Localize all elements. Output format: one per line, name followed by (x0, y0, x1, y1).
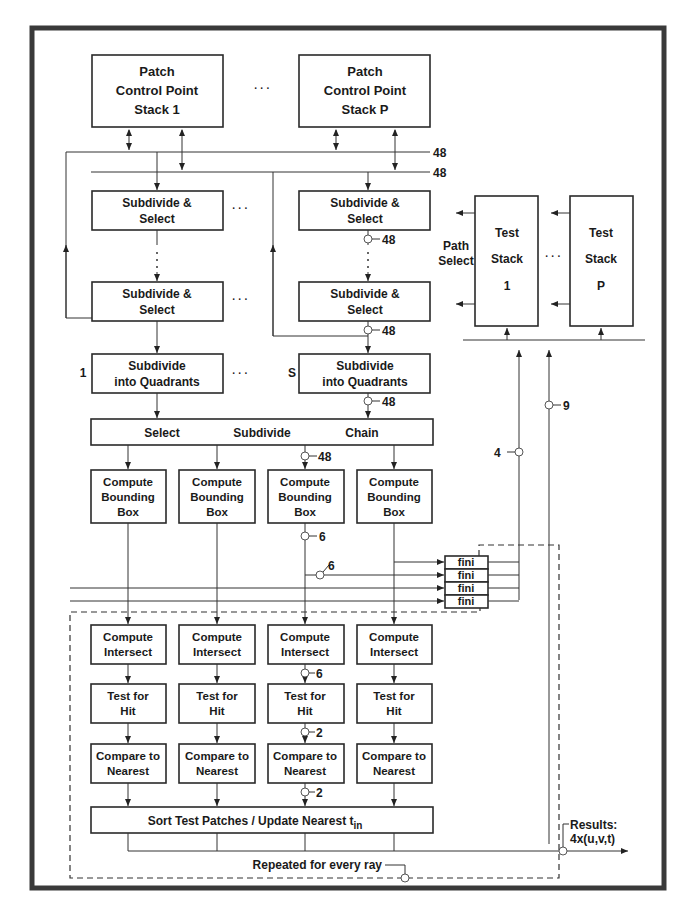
patch-stack-p: Patch Control Point Stack P (299, 55, 430, 127)
compare-nearest-2: Compare to Nearest (179, 744, 255, 783)
to-chain-links: 48 (157, 393, 396, 418)
bbox-output-links: 6 6 (70, 523, 444, 624)
svg-text:Select: Select (139, 303, 174, 317)
test-stack-1: Test Stack 1 (475, 196, 538, 326)
stack-bus-connectors (129, 130, 395, 170)
test-hit-2: Test for Hit (179, 684, 255, 723)
svg-text:Box: Box (294, 506, 316, 518)
svg-text:4: 4 (494, 446, 501, 460)
svg-text:Test for: Test for (373, 690, 415, 702)
svg-text:Compare to: Compare to (362, 750, 426, 762)
svg-text:6: 6 (328, 559, 335, 573)
svg-text:Select: Select (347, 303, 382, 317)
sort-update-bar: Sort Test Patches / Update Nearest tin (91, 807, 433, 833)
svg-text:Subdivide: Subdivide (128, 359, 186, 373)
svg-text:Nearest: Nearest (373, 765, 415, 777)
svg-text:Nearest: Nearest (196, 765, 238, 777)
svg-text:1: 1 (504, 279, 511, 293)
svg-text:Control Point: Control Point (324, 83, 407, 98)
svg-text:48: 48 (382, 395, 396, 409)
compare-nearest-3: Compare to Nearest (268, 744, 344, 783)
svg-text:Compute: Compute (103, 476, 153, 488)
svg-text:Intersect: Intersect (104, 646, 152, 658)
svg-text:Compare to: Compare to (185, 750, 249, 762)
svg-text:Intersect: Intersect (370, 646, 418, 658)
svg-text:fini: fini (458, 556, 475, 568)
quadrants-first: Subdivide into Quadrants (92, 354, 223, 393)
svg-text:Compute: Compute (280, 476, 330, 488)
svg-text:4x(u,v,t): 4x(u,v,t) (570, 832, 615, 846)
bounding-box-3: Compute Bounding Box (268, 470, 344, 523)
svg-text:Subdivide &: Subdivide & (122, 196, 192, 210)
svg-text:into Quadrants: into Quadrants (114, 375, 200, 389)
to-bbox-links: 48 (128, 445, 394, 469)
svg-text:Compute: Compute (369, 476, 419, 488)
subdivide-select-1-first: Subdivide & Select (92, 191, 223, 230)
svg-text:Select: Select (139, 212, 174, 226)
diagram-canvas: Patch Control Point Stack 1 · · · Patch … (0, 0, 695, 918)
svg-text:48: 48 (433, 146, 447, 160)
ellipsis: · · · (545, 251, 561, 262)
svg-text:Bounding: Bounding (190, 491, 244, 503)
stage-continuation: 48 (156, 230, 396, 281)
bounding-box-2: Compute Bounding Box (179, 470, 255, 523)
quadrants-last: Subdivide into Quadrants (299, 354, 430, 393)
ellipsis: · · · (232, 203, 248, 214)
test-hit-1: Test for Hit (91, 684, 166, 723)
svg-text:Intersect: Intersect (281, 646, 329, 658)
svg-text:Compare to: Compare to (273, 750, 337, 762)
select-subdivide-chain: Select Subdivide Chain (91, 419, 433, 445)
svg-text:fini: fini (458, 569, 475, 581)
svg-text:Hit: Hit (209, 705, 225, 717)
test-stack-p: Test Stack P (570, 196, 633, 326)
svg-text:Compute: Compute (280, 631, 330, 643)
svg-text:Stack: Stack (585, 252, 617, 266)
svg-text:48: 48 (318, 450, 332, 464)
compute-intersect-4: Compute Intersect (357, 625, 432, 664)
svg-text:Path: Path (443, 239, 469, 253)
stage-label-s: S (288, 366, 296, 380)
to-quadrants-links: 48 (157, 321, 396, 353)
svg-text:Patch: Patch (139, 64, 174, 79)
ellipsis: · · · (232, 294, 248, 305)
svg-text:Test for: Test for (107, 690, 149, 702)
subdivide-select-2-last: Subdivide & Select (299, 282, 430, 321)
svg-text:Test for: Test for (284, 690, 326, 702)
ellipsis: · · · (254, 83, 270, 94)
bounding-box-4: Compute Bounding Box (357, 470, 432, 523)
svg-text:Subdivide &: Subdivide & (330, 287, 400, 301)
svg-text:Compare to: Compare to (96, 750, 160, 762)
compute-intersect-2: Compute Intersect (179, 625, 255, 664)
svg-text:48: 48 (433, 166, 447, 180)
svg-text:6: 6 (319, 530, 326, 544)
svg-text:2: 2 (316, 786, 323, 800)
svg-text:Results:: Results: (570, 818, 617, 832)
stage-label-1: 1 (80, 366, 87, 380)
to-sort-links: 2 (128, 783, 394, 806)
to-hit-links: 6 (128, 664, 394, 683)
svg-text:Stack: Stack (491, 252, 523, 266)
to-nearest-links: 2 (128, 723, 394, 743)
svg-text:Control Point: Control Point (116, 83, 199, 98)
subdivide-select-1-last: Subdivide & Select (299, 191, 430, 230)
svg-text:9: 9 (563, 399, 570, 413)
svg-text:Chain: Chain (345, 426, 378, 440)
compare-nearest-1: Compare to Nearest (91, 744, 166, 783)
svg-text:into Quadrants: into Quadrants (322, 375, 408, 389)
test-hit-3: Test for Hit (268, 684, 344, 723)
svg-text:Hit: Hit (297, 705, 313, 717)
svg-text:P: P (597, 279, 605, 293)
svg-text:Stack P: Stack P (342, 102, 389, 117)
svg-text:Stack 1: Stack 1 (134, 102, 180, 117)
svg-text:Hit: Hit (120, 705, 136, 717)
svg-text:Select: Select (438, 254, 473, 268)
svg-text:Nearest: Nearest (107, 765, 149, 777)
svg-text:Subdivide: Subdivide (233, 426, 291, 440)
svg-text:Subdivide &: Subdivide & (330, 196, 400, 210)
subdivide-select-2-first: Subdivide & Select (92, 282, 223, 321)
svg-text:Compute: Compute (192, 476, 242, 488)
svg-text:Bounding: Bounding (278, 491, 332, 503)
svg-text:Box: Box (383, 506, 405, 518)
svg-text:Select: Select (144, 426, 179, 440)
compute-intersect-3: Compute Intersect (268, 625, 344, 664)
